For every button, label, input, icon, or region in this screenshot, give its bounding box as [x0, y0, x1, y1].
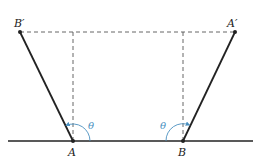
point-a-prime-dot	[233, 30, 237, 34]
rod-a-b-prime	[20, 32, 73, 141]
label-a: A	[67, 146, 76, 159]
label-b-prime: B′	[13, 17, 25, 30]
rod-b-a-prime	[183, 32, 235, 141]
rod-diagram-svg: B′ A′ A B θ θ	[0, 0, 267, 164]
point-a-dot	[71, 139, 75, 143]
point-b-dot	[181, 139, 185, 143]
theta-label-b: θ	[160, 120, 166, 131]
diagram: B′ A′ A B θ θ	[0, 0, 267, 164]
point-b-prime-dot	[18, 30, 22, 34]
label-b: B	[177, 146, 186, 159]
theta-label-a: θ	[88, 120, 94, 131]
angle-arc-b	[166, 124, 190, 141]
label-a-prime: A′	[226, 17, 238, 30]
